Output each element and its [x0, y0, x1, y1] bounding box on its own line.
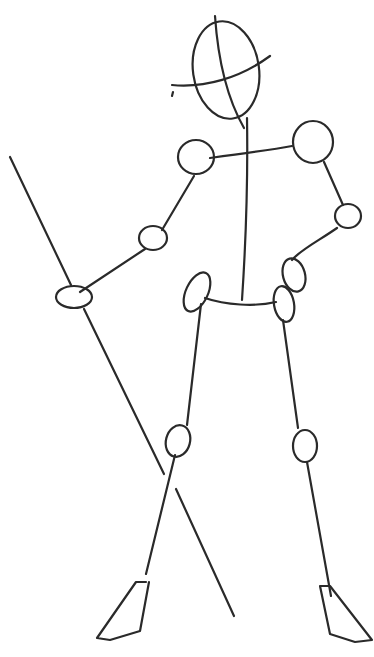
right-foot: [320, 586, 372, 642]
head: [172, 16, 270, 128]
stick-figure-sketch: [0, 0, 374, 657]
left-thigh: [187, 304, 201, 425]
left-hand-joint: [56, 286, 92, 308]
staff: [10, 157, 234, 616]
right-hand-joint: [279, 256, 309, 295]
spine: [242, 118, 247, 300]
left-forearm: [80, 249, 145, 292]
left-knee-joint: [162, 422, 193, 459]
left-elbow-joint: [139, 226, 167, 250]
right-forearm: [292, 228, 337, 260]
right-shin: [307, 462, 331, 596]
shoulder-line: [210, 146, 292, 158]
left-shin: [146, 455, 175, 574]
right-upper-arm: [324, 162, 343, 205]
left-upper-arm: [162, 176, 194, 230]
pelvis-line: [205, 298, 276, 305]
right-thigh: [283, 320, 298, 428]
right-elbow-joint: [335, 204, 361, 228]
left-hip-joint: [178, 268, 216, 315]
left-foot: [97, 582, 149, 640]
right-shoulder-joint: [293, 121, 333, 163]
left-shoulder-joint: [178, 140, 214, 174]
right-knee-joint: [293, 430, 317, 462]
